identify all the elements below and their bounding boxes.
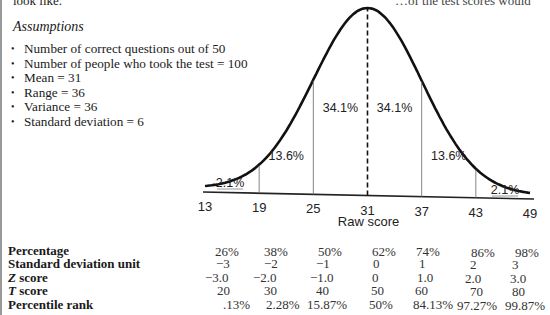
table-cell: 99.87% bbox=[505, 298, 545, 314]
table-cell: 97.27% bbox=[457, 298, 497, 314]
table-cell: 2.28% bbox=[266, 297, 300, 313]
x-tick-label: 43 bbox=[469, 205, 483, 220]
region-percent-label: 13.6% bbox=[431, 149, 466, 163]
table-cell: .13% bbox=[223, 297, 250, 313]
x-tick-label: 19 bbox=[252, 200, 266, 215]
italic-symbol: T bbox=[8, 283, 16, 298]
x-tick-label: 13 bbox=[198, 199, 212, 214]
region-percent-label: 2.1% bbox=[491, 183, 520, 197]
table-row-label: Percentile rank bbox=[8, 297, 93, 313]
table-cell: 84.13% bbox=[413, 297, 453, 313]
region-percent-label: 13.6% bbox=[269, 149, 304, 163]
x-axis-title: Raw score bbox=[338, 214, 399, 229]
table-cell: 50% bbox=[369, 297, 393, 313]
normal-curve-chart: 2.1%13.6%34.1%34.1%13.6%2.1%131925313743… bbox=[0, 0, 550, 240]
table-cell: 98% bbox=[515, 245, 539, 261]
x-axis-line bbox=[203, 192, 534, 199]
region-percent-label: 2.1% bbox=[216, 176, 245, 190]
region-percent-label: 34.1% bbox=[377, 101, 412, 115]
region-percent-label: 34.1% bbox=[323, 101, 358, 115]
x-tick-label: 49 bbox=[523, 206, 537, 221]
normal-curve-line bbox=[205, 8, 530, 193]
x-tick-label: 25 bbox=[306, 201, 320, 216]
table-cell: 15.87% bbox=[307, 297, 347, 313]
x-tick-label: 37 bbox=[414, 204, 428, 219]
